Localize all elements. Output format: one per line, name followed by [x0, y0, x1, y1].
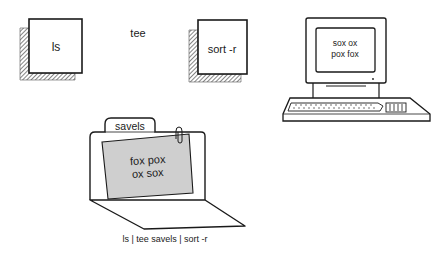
sort-command-box: sort -r — [189, 20, 247, 82]
screen-line-1: sox ox — [333, 38, 358, 48]
ls-command-box: ls — [20, 19, 82, 80]
screen-line-2: pox fox — [331, 49, 359, 59]
keyboard-main-keys — [288, 103, 383, 111]
folder-front-flap — [90, 200, 245, 229]
keyboard-numpad — [386, 103, 406, 112]
paper-line-2: ox sox — [131, 166, 164, 180]
savels-folder: savels fox pox ox sox — [90, 118, 245, 229]
ls-label: ls — [52, 40, 61, 54]
folder-tab-label: savels — [115, 120, 145, 132]
pipeline-diagram: ls tee sort -r sox ox pox fox savels fox — [0, 0, 434, 254]
computer-terminal: sox ox pox fox — [283, 18, 430, 121]
sort-label: sort -r — [208, 43, 237, 55]
paper-line-1: fox pox — [130, 153, 167, 167]
power-led-icon — [372, 78, 374, 80]
tee-label: tee — [130, 27, 145, 39]
pipeline-caption: ls | tee savels | sort -r — [122, 234, 207, 244]
monitor-stand — [313, 83, 379, 98]
